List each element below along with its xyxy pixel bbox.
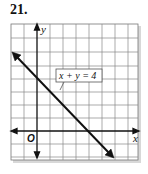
svg-text:x + y = 4: x + y = 4 bbox=[58, 70, 96, 81]
origin-label: O bbox=[27, 133, 35, 144]
y-axis-label: y bbox=[40, 23, 46, 35]
x-axis-label: x bbox=[132, 132, 138, 144]
graph: y x O x + y = 4 bbox=[0, 0, 148, 174]
